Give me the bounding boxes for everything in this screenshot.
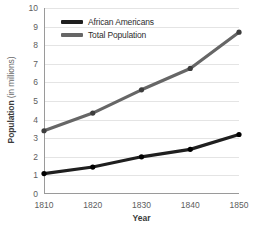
legend-label: Total Population [88,30,146,40]
x-tick-label: 1850 [230,200,249,210]
data-point-marker [236,30,241,35]
series-line [44,32,239,131]
y-tick-label: 7 [33,59,38,69]
y-tick-label: 6 [33,77,38,87]
y-tick-label: 10 [29,3,38,13]
legend-item: African Americans [61,17,154,27]
data-point-marker [236,132,241,137]
legend-label: African Americans [88,17,154,27]
y-axis-title-strong: Population [6,101,16,144]
data-point-marker [90,110,95,115]
y-tick-label: 3 [33,133,38,143]
y-tick-label: 1 [33,170,38,180]
x-tick-label: 1820 [83,200,102,210]
legend-item: Total Population [61,30,154,40]
series-line [44,134,239,173]
line-chart: Population (in millions) 012345678910 18… [0,0,259,235]
data-point-marker [188,66,193,71]
y-tick-label: 5 [33,96,38,106]
y-axis-title-light: (in millions) [6,57,16,99]
data-point-marker [139,154,144,159]
y-tick-label: 9 [33,22,38,32]
y-tick-label: 8 [33,40,38,50]
legend-swatch-icon [61,20,83,24]
data-point-marker [90,164,95,169]
data-point-marker [139,87,144,92]
x-axis-title: Year [44,213,239,223]
y-tick-label: 4 [33,115,38,125]
data-point-marker [41,171,46,176]
data-point-marker [41,128,46,133]
y-tick-label: 2 [33,152,38,162]
y-tick-label: 0 [33,189,38,199]
x-tick-label: 1830 [132,200,151,210]
legend-swatch-icon [61,33,83,37]
plot-area: 012345678910 18101820183018401850 Africa… [44,8,239,194]
legend: African AmericansTotal Population [61,17,154,40]
y-axis-title: Population (in millions) [6,35,16,165]
x-tick-label: 1810 [35,200,54,210]
data-point-marker [188,147,193,152]
x-tick-label: 1840 [181,200,200,210]
